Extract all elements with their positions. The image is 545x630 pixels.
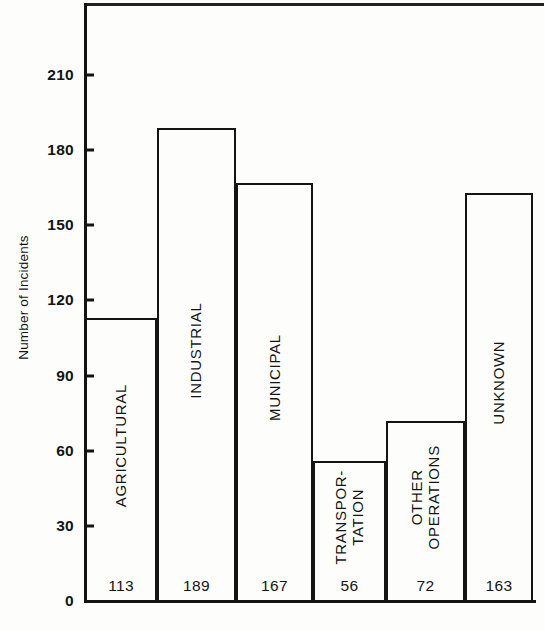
bar-label-agricultural: AGRICULTURAL — [87, 324, 155, 567]
bar-label-line: AGRICULTURAL — [112, 384, 129, 507]
bar-label-other-operations: OTHEROPERATIONS — [388, 427, 463, 567]
bar-label-unknown: UNKNOWN — [467, 199, 531, 567]
bar-value-municipal: 167 — [238, 577, 311, 595]
bar-label-industrial: INDUSTRIAL — [159, 134, 234, 567]
bar-municipal[interactable]: MUNICIPAL167 — [236, 183, 313, 603]
bar-label-line: TRANSPOR- — [332, 470, 349, 565]
bar-label-line: OPERATIONS — [426, 445, 443, 549]
bar-value-transportation: 56 — [315, 577, 384, 595]
bar-chart: Number of Incidents 2101801501209060300 … — [0, 0, 545, 630]
bar-unknown[interactable]: UNKNOWN163 — [465, 193, 533, 603]
bar-agricultural[interactable]: AGRICULTURAL113 — [85, 318, 157, 603]
bar-label-line: UNKNOWN — [490, 341, 507, 425]
bar-label-line: OTHER — [408, 469, 425, 525]
bars-container: AGRICULTURAL113INDUSTRIAL189MUNICIPAL167… — [0, 0, 545, 630]
bar-label-line: TATION — [350, 488, 367, 545]
bar-other-operations[interactable]: OTHEROPERATIONS72 — [386, 421, 465, 603]
bar-label-transportation: TRANSPOR-TATION — [315, 467, 384, 567]
bar-value-industrial: 189 — [159, 577, 234, 595]
bar-value-agricultural: 113 — [87, 577, 155, 595]
bar-transportation[interactable]: TRANSPOR-TATION56 — [313, 461, 386, 603]
bar-value-other-operations: 72 — [388, 577, 463, 595]
bar-industrial[interactable]: INDUSTRIAL189 — [157, 128, 236, 603]
bar-label-municipal: MUNICIPAL — [238, 189, 311, 567]
bar-label-line: MUNICIPAL — [266, 334, 283, 421]
bar-value-unknown: 163 — [467, 577, 531, 595]
bar-label-line: INDUSTRIAL — [188, 302, 205, 398]
